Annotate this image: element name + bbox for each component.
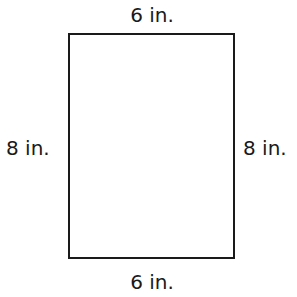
right-side-label: 8 in. — [243, 138, 287, 158]
bottom-side-label: 6 in. — [130, 272, 174, 292]
left-side-label: 8 in. — [6, 138, 50, 158]
top-side-label: 6 in. — [130, 5, 174, 25]
rectangle-shape — [68, 33, 235, 259]
